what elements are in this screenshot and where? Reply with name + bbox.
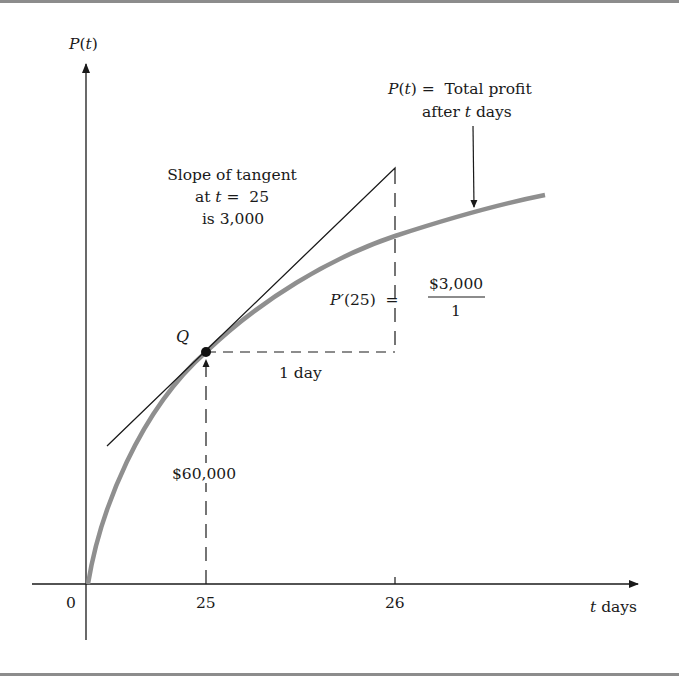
- origin-label: 0: [66, 594, 76, 612]
- point-q-label: Q: [176, 327, 189, 346]
- x-tick-label-25: 25: [196, 594, 216, 612]
- derivative-numerator: $3,000: [429, 275, 483, 293]
- x-axis-label: t days: [590, 598, 637, 616]
- value-label: $60,000: [172, 465, 236, 483]
- curve-label-arrow: [473, 126, 474, 207]
- point-q: [201, 347, 211, 357]
- derivative-lhs: P′(25) =: [329, 291, 399, 309]
- figure-canvas: P(t) 0 25 26 t days P(t) = Total profit …: [0, 0, 679, 679]
- derivative-profit-figure: P(t) 0 25 26 t days P(t) = Total profit …: [0, 0, 679, 679]
- derivative-denominator: 1: [451, 302, 461, 320]
- y-axis-label: P(t): [68, 35, 98, 53]
- tangent-note-line2: at t = 25: [195, 188, 269, 206]
- curve-label-line1: P(t) = Total profit: [387, 80, 532, 98]
- run-label: 1 day: [279, 364, 322, 382]
- profit-curve: [88, 195, 545, 584]
- x-tick-label-26: 26: [385, 594, 405, 612]
- tangent-note-line3: is 3,000: [202, 210, 264, 228]
- tangent-note-line1: Slope of tangent: [167, 166, 297, 184]
- curve-label-line2: after t days: [422, 103, 512, 121]
